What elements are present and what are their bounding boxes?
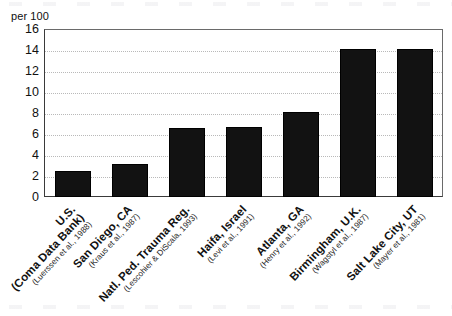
bar: [55, 171, 91, 197]
bar-series: [44, 29, 443, 197]
y-axis-unit-label: per 100: [11, 10, 49, 22]
category-place-line2: (Coma Data Bank): [8, 211, 85, 293]
bar: [226, 127, 262, 197]
y-tick-label: 8: [0, 106, 39, 120]
bar: [340, 49, 376, 197]
y-tick-label: 12: [0, 64, 39, 78]
y-tick-label: 16: [0, 22, 39, 36]
bar: [397, 49, 433, 197]
y-tick-label: 14: [0, 43, 39, 57]
x-category-label: Haifa, Israel(Levi et al., 1991): [194, 203, 255, 266]
bar: [169, 128, 205, 197]
y-tick-label: 6: [0, 127, 39, 141]
bar: [283, 112, 319, 197]
y-tick-label: 4: [0, 148, 39, 162]
x-axis-category-labels: U.S.(Coma Data Bank)(Luerssen et al., 19…: [0, 197, 452, 312]
bar: [112, 164, 148, 197]
bar-chart-figure: per 100 1614121086420 U.S.(Coma Data Ban…: [0, 0, 452, 316]
y-tick-label: 10: [0, 85, 39, 99]
y-tick-label: 2: [0, 169, 39, 183]
scan-artifact-top: [0, 2, 452, 6]
